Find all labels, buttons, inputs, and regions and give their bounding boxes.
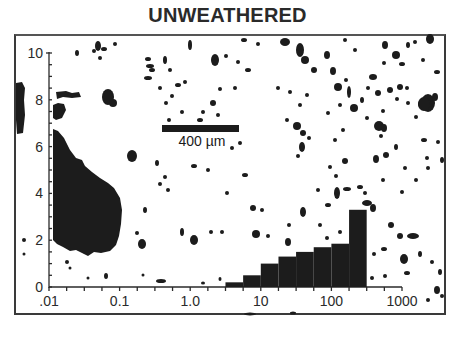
histogram-bar [331,244,349,287]
histogram-bar [225,282,243,287]
x-tick-label: 1000 [386,293,417,309]
histogram-bar [296,252,314,287]
histogram-bar [243,275,261,287]
x-axis [49,287,402,291]
chart-plot: 0246810 .010.11.0101001000 400 µm [0,0,455,341]
y-axis [46,52,52,288]
y-tick-label: 2 [35,232,43,248]
y-tick-label: 4 [35,185,43,201]
histogram-bar [349,210,367,287]
histogram-bar [278,257,296,287]
y-axis-labels: 0246810 [27,45,43,295]
particle-image-background [16,34,444,316]
histogram-bars [225,210,366,287]
scale-bar-label: 400 µm [179,133,226,149]
y-tick-label: 6 [35,139,43,155]
x-tick-label: 0.1 [110,293,130,309]
x-tick-label: 1.0 [180,293,200,309]
x-tick-label: .01 [39,293,59,309]
x-axis-labels: .010.11.0101001000 [39,293,418,309]
histogram-bar [314,247,332,287]
scale-bar [162,125,239,132]
y-tick-label: 10 [27,45,43,61]
y-tick-label: 8 [35,92,43,108]
histogram-bar [261,264,279,287]
x-tick-label: 100 [320,293,344,309]
x-tick-label: 10 [253,293,269,309]
